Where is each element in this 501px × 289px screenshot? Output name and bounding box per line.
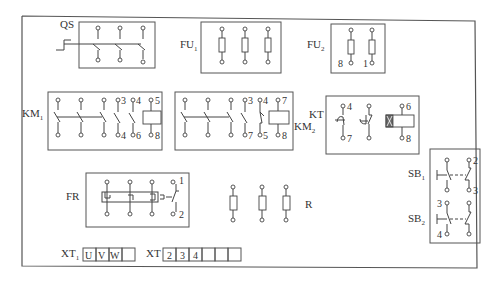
svg-text:2: 2 (473, 155, 478, 166)
component-sb: SB1 2 3 SB2 3 4 (408, 149, 480, 243)
component-fu2: FU2 8 1 (307, 24, 385, 73)
svg-text:SB2: SB2 (408, 212, 425, 227)
svg-text:8: 8 (338, 58, 343, 69)
svg-text:7: 7 (347, 133, 352, 144)
svg-text:7: 7 (282, 95, 287, 106)
svg-text:3: 3 (437, 198, 442, 209)
svg-text:3: 3 (248, 95, 253, 106)
svg-text:1: 1 (363, 58, 368, 69)
svg-text:2: 2 (167, 250, 172, 261)
component-kt: KT 4 6 7 8 (309, 96, 419, 154)
svg-text:2: 2 (179, 209, 184, 220)
svg-text:3: 3 (121, 95, 126, 106)
terminal-block-xt: XT 2 3 4 (146, 247, 241, 261)
svg-text:6: 6 (136, 130, 141, 141)
qs-label: QS (60, 18, 74, 30)
svg-text:4: 4 (193, 250, 198, 261)
svg-text:FU2: FU2 (307, 38, 325, 53)
svg-text:7: 7 (248, 130, 253, 141)
svg-text:4: 4 (121, 130, 126, 141)
component-r: R (230, 185, 313, 222)
component-qs: QS (56, 18, 155, 68)
svg-text:R: R (305, 198, 313, 210)
component-km2: 3 4 7 7 5 8 KM2 (175, 92, 316, 150)
svg-text:5: 5 (155, 95, 160, 106)
svg-text:1: 1 (179, 175, 184, 186)
svg-text:KM2: KM2 (294, 120, 316, 135)
component-fu1: FU1 (180, 22, 281, 73)
svg-text:XT: XT (146, 247, 161, 259)
component-km1: KM1 3 4 5 4 6 8 (22, 92, 162, 150)
svg-text:3: 3 (473, 185, 478, 196)
svg-text:FU1: FU1 (180, 38, 198, 53)
svg-text:4: 4 (263, 95, 268, 106)
svg-text:XT1: XT1 (61, 247, 80, 262)
svg-text:5: 5 (263, 130, 268, 141)
svg-text:KM1: KM1 (22, 107, 44, 122)
svg-text:8: 8 (282, 130, 287, 141)
svg-text:4: 4 (136, 95, 141, 106)
svg-text:3: 3 (180, 250, 185, 261)
svg-text:8: 8 (406, 133, 411, 144)
qs-handle-icon (56, 40, 71, 50)
component-fr: FR 1 2 (66, 173, 189, 227)
svg-text:W: W (110, 250, 120, 261)
svg-text:SB1: SB1 (408, 167, 425, 182)
wiring-layout-diagram: QS FU1 FU2 (0, 0, 501, 289)
svg-text:U: U (85, 250, 93, 261)
svg-text:4: 4 (347, 101, 352, 112)
svg-text:6: 6 (406, 101, 411, 112)
svg-text:KT: KT (309, 108, 324, 120)
svg-text:FR: FR (66, 190, 80, 202)
svg-text:4: 4 (437, 229, 442, 240)
svg-text:V: V (98, 250, 106, 261)
svg-text:8: 8 (155, 130, 160, 141)
terminal-block-xt1: XT1 U V W (61, 247, 135, 262)
